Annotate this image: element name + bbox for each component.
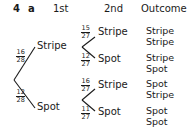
outcome-1: StripeStripe xyxy=(146,26,174,47)
prob-2nd-3: 1627 xyxy=(81,78,90,92)
prob-1st-stripe: 1628 xyxy=(16,49,25,63)
label-1st-spot: Spot xyxy=(37,101,60,112)
label-2nd-1: Stripe xyxy=(98,26,128,37)
prob-2nd-1: 1527 xyxy=(81,25,90,39)
label-2nd-2: Spot xyxy=(98,53,121,64)
outcome-3: SpotStripe xyxy=(146,79,174,100)
question-part: a xyxy=(28,3,35,14)
outcome-4: SpotSpot xyxy=(146,106,168,127)
label-1st-stripe: Stripe xyxy=(37,40,67,51)
label-2nd-4: Spot xyxy=(98,106,121,117)
prob-1st-spot: 1228 xyxy=(16,89,25,103)
prob-2nd-2: 1227 xyxy=(81,53,90,67)
outcome-2: StripeSpot xyxy=(146,53,174,74)
question-number: 4 xyxy=(13,3,20,14)
label-2nd-3: Stripe xyxy=(98,79,128,90)
header-outcome: Outcome xyxy=(141,3,187,14)
header-1st: 1st xyxy=(53,3,69,14)
prob-2nd-4: 1127 xyxy=(81,106,90,120)
header-2nd: 2nd xyxy=(104,3,123,14)
